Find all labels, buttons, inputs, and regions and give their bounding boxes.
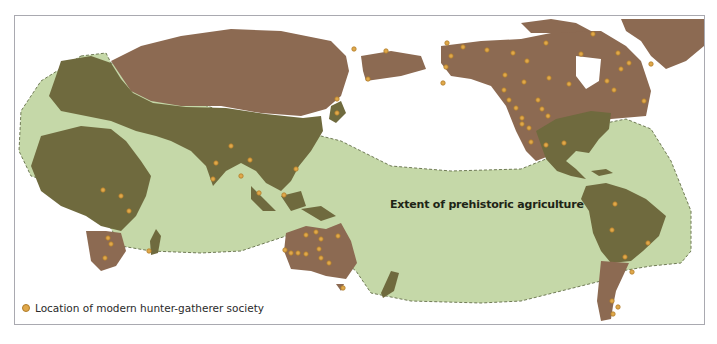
map-frame xyxy=(14,15,705,325)
map-legend: Location of modern hunter-gatherer socie… xyxy=(22,302,264,314)
legend-label: Location of modern hunter-gatherer socie… xyxy=(35,302,264,314)
alaska-chukotka-landmass xyxy=(361,51,426,81)
world-map xyxy=(15,16,704,324)
hunter-gatherer-dot-icon xyxy=(22,304,30,312)
agriculture-extent-label: Extent of prehistoric agriculture xyxy=(390,198,584,211)
arctic-islands xyxy=(521,19,591,33)
